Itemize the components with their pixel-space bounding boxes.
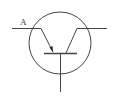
terminal-label-a: A <box>20 17 27 27</box>
collector-diagonal-line <box>66 29 77 54</box>
transistor-diagram: A <box>0 0 113 97</box>
